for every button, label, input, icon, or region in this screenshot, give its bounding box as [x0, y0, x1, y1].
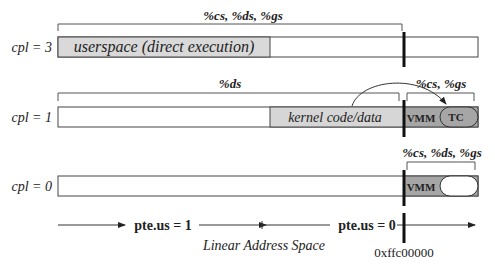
row-cpl-0: cpl = 0 %cs, %ds, %gs VMM [11, 145, 481, 206]
segment-label: %ds [219, 76, 241, 91]
userspace-label: userspace (direct execution) [74, 38, 255, 56]
tc-label: TC [448, 111, 463, 123]
cpl-label: cpl = 0 [11, 179, 52, 194]
kernel-label: kernel code/data [288, 110, 382, 125]
vmm-segment-bracket [407, 93, 474, 101]
axis-caption: Linear Address Space [202, 238, 325, 253]
cpl-label: cpl = 1 [11, 110, 52, 125]
vmm-segment-label: %cs, %ds, %gs [402, 145, 481, 160]
address-axis: pte.us = 1 pte.us = 0 Linear Address Spa… [58, 213, 475, 260]
row-cpl-3: cpl = 3 %cs, %ds, %gs userspace (direct … [11, 8, 478, 67]
vmm-segment-label: %cs, %gs [416, 76, 467, 91]
boundary-address: 0xffc00000 [374, 245, 434, 260]
empty-translation-cache [440, 176, 478, 196]
row-cpl-1: cpl = 1 %ds %cs, %gs kernel code/data VM… [11, 76, 478, 137]
vmm-label: VMM [407, 112, 436, 124]
linear-address-space-diagram: cpl = 3 %cs, %ds, %gs userspace (direct … [0, 0, 495, 274]
vmm-label: VMM [407, 181, 436, 193]
cpl-label: cpl = 3 [11, 40, 52, 55]
user-pte-label: pte.us = 1 [134, 218, 191, 233]
kernel-pte-label: pte.us = 0 [338, 218, 395, 233]
vmm-segment-bracket [407, 162, 475, 170]
segment-label: %cs, %ds, %gs [203, 8, 282, 23]
segment-bracket [58, 93, 399, 101]
segment-bracket [58, 24, 402, 31]
